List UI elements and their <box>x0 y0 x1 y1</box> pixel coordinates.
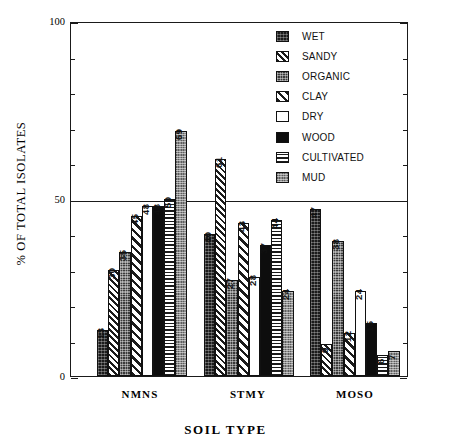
legend-swatch-mud <box>276 172 289 183</box>
legend-label-dry: DRY <box>302 111 324 122</box>
legend-swatch-organic <box>276 71 289 82</box>
legend-item-cultivated[interactable]: CULTIVATED <box>276 147 406 167</box>
legend-item-wet[interactable]: WET <box>276 26 406 46</box>
bar-nmns-dry <box>142 206 153 376</box>
x-tick-label-nmns: NMNS <box>95 388 185 400</box>
y-tick-left-20 <box>71 307 75 308</box>
legend-item-organic[interactable]: ORGANIC <box>276 66 406 86</box>
bar-value-stmy-clay: 43 <box>236 221 247 232</box>
reference-line-50 <box>71 201 407 202</box>
y-tick-left-40 <box>71 236 75 237</box>
bar-value-nmns-organic: 35 <box>117 249 128 260</box>
legend-swatch-sandy <box>276 51 289 62</box>
legend-swatch-dry <box>276 111 289 122</box>
legend-label-wet: WET <box>302 31 325 42</box>
y-tick-right-100 <box>400 23 407 24</box>
y-tick-label-0: 0 <box>35 372 65 383</box>
legend-item-clay[interactable]: CLAY <box>276 87 406 107</box>
legend-label-mud: MUD <box>302 172 325 183</box>
bar-stmy-wood <box>260 245 271 376</box>
bar-value-moso-cultivated: 6 <box>375 358 386 364</box>
y-tick-left-100 <box>71 23 78 24</box>
legend-swatch-clay <box>276 91 289 102</box>
bar-value-stmy-mud: 24 <box>280 288 291 299</box>
y-tick-right-10 <box>403 343 407 344</box>
y-tick-label-50: 50 <box>35 195 65 206</box>
legend-swatch-cultivated <box>276 152 289 163</box>
bar-value-nmns-wood: 48 <box>151 203 162 214</box>
y-tick-right-20 <box>403 307 407 308</box>
bar-stmy-sandy <box>215 159 226 376</box>
bar-value-nmns-dry: 48 <box>140 203 151 214</box>
legend-label-wood: WOOD <box>302 132 335 143</box>
bar-value-moso-dry: 24 <box>353 288 364 299</box>
bar-value-stmy-wet: 40 <box>202 232 213 243</box>
bar-stmy-wet <box>204 234 215 376</box>
bar-stmy-clay <box>238 223 249 376</box>
bar-stmy-mud <box>282 291 293 376</box>
bar-moso-organic <box>332 241 343 376</box>
y-tick-left-30 <box>71 272 75 273</box>
bar-nmns-organic <box>119 252 130 376</box>
bar-value-stmy-organic: 27 <box>224 278 235 289</box>
legend-label-cultivated: CULTIVATED <box>302 152 364 163</box>
legend-swatch-wet <box>276 31 289 42</box>
y-tick-left-0 <box>71 378 78 379</box>
bar-stmy-dry <box>249 277 260 376</box>
bar-value-moso-clay: 12 <box>342 331 353 342</box>
legend-label-sandy: SANDY <box>302 51 337 62</box>
bar-stmy-organic <box>226 280 237 376</box>
x-tick-label-stmy: STMY <box>203 388 293 400</box>
legend-label-organic: ORGANIC <box>302 71 350 82</box>
y-axis-tick-labels: 100 50 0 <box>33 22 65 377</box>
bar-value-moso-wood: 15 <box>364 320 375 331</box>
y-tick-right-40 <box>403 236 407 237</box>
bar-value-stmy-dry: 28 <box>247 274 258 285</box>
bar-chart: % OF TOTAL ISOLATES 100 50 0 13303545484… <box>0 0 451 448</box>
x-tick-label-moso: MOSO <box>310 388 400 400</box>
bar-nmns-sandy <box>108 270 119 377</box>
bar-value-nmns-clay: 45 <box>129 214 140 225</box>
bar-nmns-wood <box>153 206 164 376</box>
bar-value-nmns-wet: 13 <box>95 327 106 338</box>
bar-nmns-clay <box>131 216 142 376</box>
y-tick-left-90 <box>71 59 75 60</box>
bar-value-stmy-cultivated: 44 <box>269 217 280 228</box>
y-tick-label-100: 100 <box>35 17 65 28</box>
bar-value-nmns-mud: 69 <box>173 129 184 140</box>
y-axis-title: % OF TOTAL ISOLATES <box>14 89 29 299</box>
y-tick-right-0 <box>400 378 407 379</box>
legend-item-dry[interactable]: DRY <box>276 107 406 127</box>
legend: WETSANDYORGANICCLAYDRYWOODCULTIVATEDMUD <box>276 26 406 188</box>
x-axis-title: SOIL TYPE <box>0 422 451 438</box>
legend-label-clay: CLAY <box>302 91 328 102</box>
legend-item-mud[interactable]: MUD <box>276 167 406 187</box>
y-tick-right-30 <box>403 272 407 273</box>
legend-swatch-wood <box>276 132 289 143</box>
bar-value-nmns-cultivated: 50 <box>162 196 173 207</box>
bar-value-stmy-sandy: 61 <box>213 157 224 168</box>
bar-value-moso-mud: 7 <box>386 354 397 360</box>
bar-moso-dry <box>355 291 366 376</box>
bar-value-moso-organic: 38 <box>330 239 341 250</box>
bar-value-nmns-sandy: 30 <box>106 267 117 278</box>
y-tick-left-60 <box>71 165 75 166</box>
legend-item-wood[interactable]: WOOD <box>276 127 406 147</box>
y-tick-left-80 <box>71 94 75 95</box>
bar-value-moso-wet: 47 <box>308 207 319 218</box>
bar-nmns-mud <box>175 131 186 376</box>
bar-value-moso-sandy: 9 <box>319 347 330 353</box>
y-tick-left-70 <box>71 130 75 131</box>
bar-value-stmy-wood: 37 <box>258 242 269 253</box>
legend-item-sandy[interactable]: SANDY <box>276 46 406 66</box>
y-tick-left-10 <box>71 343 75 344</box>
bar-nmns-cultivated <box>164 199 175 377</box>
